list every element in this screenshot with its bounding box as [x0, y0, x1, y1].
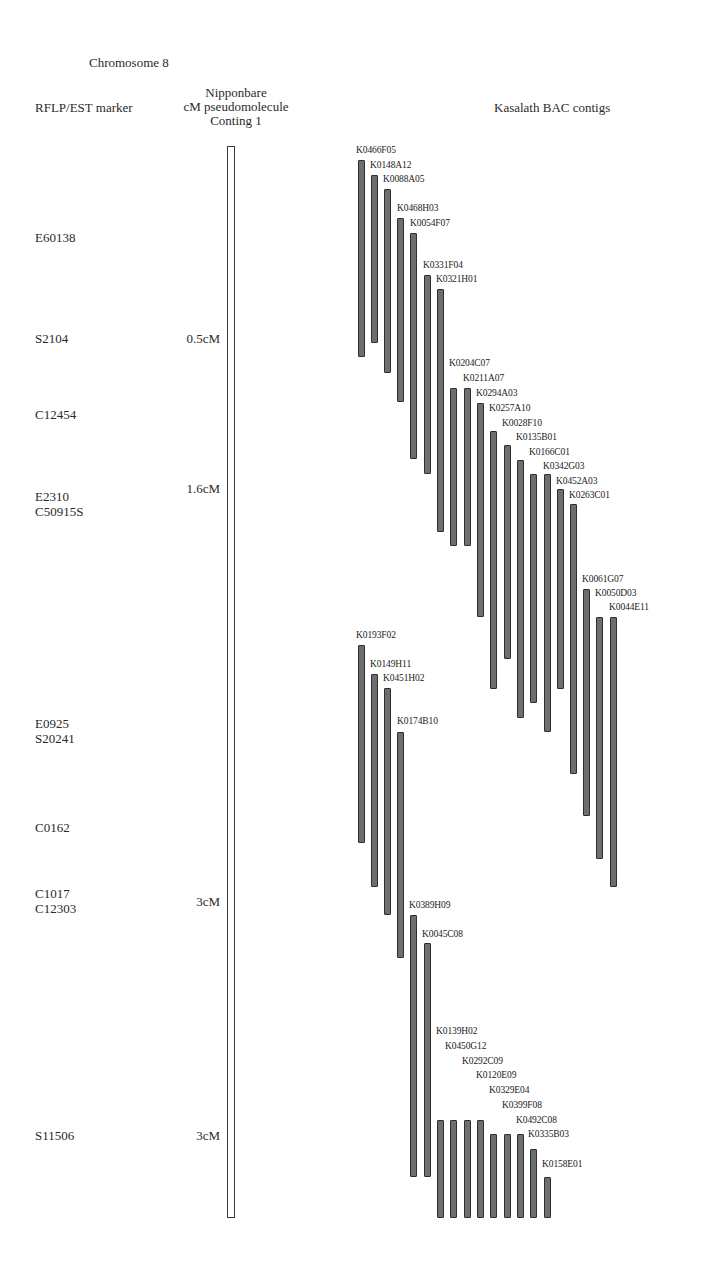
bac-clone-bar: [530, 1149, 537, 1218]
bac-clone-bar: [583, 589, 590, 816]
bac-clone-bar: [358, 160, 365, 357]
bac-clone-label: K0399F08: [502, 1100, 542, 1110]
marker-name: C12454: [35, 407, 76, 422]
bac-clone-bar: [544, 1177, 551, 1218]
bac-clone-label: K0492C08: [516, 1115, 557, 1125]
bac-clone-label: K0120E09: [476, 1070, 516, 1080]
bac-clone-label: K0450G12: [445, 1041, 486, 1051]
bac-clone-label: K0149H11: [370, 659, 411, 669]
bac-clone-bar: [610, 617, 617, 887]
bac-clone-label: K0452A03: [556, 476, 597, 486]
contig-column-header: Kasalath BAC contigs: [494, 100, 610, 116]
marker-name: E2310: [35, 489, 83, 504]
bac-clone-bar: [517, 460, 524, 718]
bac-clone-bar: [358, 645, 365, 843]
bac-clone-label: K0174B10: [397, 716, 438, 726]
marker-label: E60138: [35, 230, 75, 245]
bac-clone-bar: [464, 1120, 471, 1218]
bac-clone-bar: [424, 943, 431, 1177]
cm-header-line1: Nipponbare: [176, 86, 296, 100]
marker-name: S20241: [35, 731, 75, 746]
bac-clone-label: K0193F02: [356, 630, 396, 640]
bac-clone-bar: [450, 388, 457, 546]
bac-clone-bar: [517, 1134, 524, 1218]
marker-name: E60138: [35, 230, 75, 245]
cm-header-line3: Conting 1: [176, 114, 296, 128]
bac-clone-label: K0204C07: [449, 358, 490, 368]
cm-column-header: Nipponbare cM pseudomolecule Conting 1: [176, 86, 296, 128]
bac-clone-bar: [410, 233, 417, 459]
cm-distance-label: 3cM: [160, 1128, 220, 1144]
cm-header-line2: cM pseudomolecule: [176, 100, 296, 114]
bac-clone-label: K0061G07: [582, 574, 623, 584]
marker-label: C0162: [35, 820, 70, 835]
bac-clone-label: K0329E04: [489, 1085, 529, 1095]
bac-clone-label: K0294A03: [476, 388, 517, 398]
marker-column-header: RFLP/EST marker: [35, 100, 133, 116]
bac-clone-label: K0389H09: [409, 900, 450, 910]
bac-clone-label: K0342G03: [543, 461, 584, 471]
bac-clone-label: K0468H03: [397, 203, 438, 213]
bac-clone-bar: [596, 617, 603, 859]
bac-clone-bar: [424, 275, 431, 474]
marker-name: S11506: [35, 1128, 74, 1143]
marker-label: C1017C12303: [35, 886, 76, 916]
bac-clone-bar: [437, 289, 444, 532]
bac-clone-bar: [371, 175, 378, 343]
marker-label: E0925S20241: [35, 716, 75, 746]
marker-label: S11506: [35, 1128, 74, 1143]
bac-clone-bar: [410, 915, 417, 1177]
bac-clone-bar: [371, 674, 378, 887]
bac-clone-bar: [397, 732, 404, 958]
bac-clone-label: K0451H02: [383, 673, 424, 683]
bac-clone-bar: [504, 445, 511, 659]
bac-clone-bar: [490, 1134, 497, 1218]
bac-clone-label: K0211A07: [463, 373, 504, 383]
bac-clone-label: K0321H01: [436, 274, 477, 284]
marker-name: C12303: [35, 901, 76, 916]
bac-clone-label: K0158E01: [542, 1159, 582, 1169]
bac-clone-label: K0028F10: [502, 418, 542, 428]
bac-clone-label: K0148A12: [370, 160, 411, 170]
marker-label: S2104: [35, 331, 68, 346]
marker-name: C50915S: [35, 504, 83, 519]
cm-distance-label: 3cM: [160, 894, 220, 910]
bac-clone-label: K0335B03: [528, 1129, 569, 1139]
bac-clone-label: K0466F05: [356, 145, 396, 155]
bac-clone-bar: [557, 489, 564, 689]
bac-clone-label: K0263C01: [569, 490, 610, 500]
bac-clone-bar: [477, 403, 484, 617]
bac-clone-label: K0054F07: [410, 218, 450, 228]
chromosome-bar: [227, 146, 235, 1218]
bac-clone-label: K0331F04: [423, 260, 463, 270]
bac-clone-bar: [464, 388, 471, 546]
bac-clone-label: K0045C08: [422, 929, 463, 939]
marker-name: C0162: [35, 820, 70, 835]
bac-clone-bar: [437, 1120, 444, 1218]
cm-distance-label: 0.5cM: [160, 331, 220, 347]
chromosome-title: Chromosome 8: [89, 55, 169, 71]
bac-clone-label: K0257A10: [489, 403, 530, 413]
marker-label: E2310C50915S: [35, 489, 83, 519]
bac-clone-label: K0044E11: [609, 602, 649, 612]
bac-clone-bar: [530, 474, 537, 703]
bac-clone-bar: [450, 1120, 457, 1218]
bac-clone-label: K0088A05: [383, 174, 424, 184]
bac-clone-bar: [490, 431, 497, 689]
marker-name: S2104: [35, 331, 68, 346]
bac-clone-bar: [384, 688, 391, 915]
bac-clone-bar: [384, 189, 391, 373]
bac-clone-label: K0292C09: [462, 1056, 503, 1066]
bac-clone-label: K0135B01: [516, 432, 557, 442]
marker-label: C12454: [35, 407, 76, 422]
bac-clone-label: K0050D03: [595, 588, 636, 598]
marker-name: C1017: [35, 886, 76, 901]
bac-clone-bar: [504, 1134, 511, 1218]
bac-clone-label: K0139H02: [436, 1026, 477, 1036]
cm-distance-label: 1.6cM: [160, 481, 220, 497]
marker-name: E0925: [35, 716, 75, 731]
bac-clone-bar: [544, 474, 551, 732]
bac-clone-bar: [477, 1120, 484, 1218]
bac-clone-label: K0166C01: [529, 447, 570, 457]
bac-clone-bar: [570, 504, 577, 774]
